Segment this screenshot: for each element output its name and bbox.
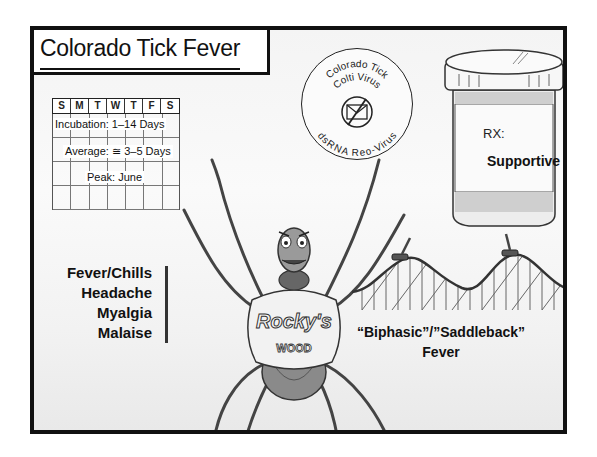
crossed-out-envelope-icon	[342, 97, 372, 127]
shirt-text-rockys: Rocky's	[256, 310, 332, 332]
day-sun: S	[53, 99, 71, 113]
symptom-item: Myalgia	[67, 303, 152, 323]
day-tue: T	[89, 99, 107, 113]
day-sat: S	[161, 99, 179, 113]
rx-label: RX:	[483, 126, 505, 141]
day-mon: M	[71, 99, 89, 113]
coaster-cart-icon	[392, 238, 410, 260]
illustration-frame: Colorado Tick Fever S M T W T F S Incuba…	[30, 26, 567, 434]
average-label: Average: ≅ 3–5 Days	[63, 145, 173, 158]
coaster-cart-icon	[502, 234, 518, 256]
treatment-value: Supportive	[487, 153, 560, 169]
fever-pattern-caption: “Biphasic”/”Saddleback” Fever	[326, 322, 556, 362]
day-fri: F	[143, 99, 161, 113]
title-box: Colorado Tick Fever	[34, 30, 270, 75]
incubation-label: Incubation: 1–14 Days	[53, 118, 166, 130]
symptom-item: Headache	[67, 283, 152, 303]
title-underline	[40, 68, 240, 70]
calendar-grid: Incubation: 1–14 Days Average: ≅ 3–5 Day…	[52, 114, 180, 210]
page-title: Colorado Tick Fever	[40, 35, 240, 62]
symptom-item: Malaise	[67, 323, 152, 343]
calendar-header: S M T W T F S	[52, 98, 180, 114]
peak-label: Peak: June	[85, 171, 144, 183]
calendar: S M T W T F S Incubation: 1–14 Days Aver…	[52, 98, 180, 210]
biphasic-rollercoaster-illustration	[352, 230, 567, 310]
symptom-item: Fever/Chills	[67, 263, 152, 283]
shirt-text-wood: WOOD	[276, 342, 311, 354]
day-thu: T	[125, 99, 143, 113]
day-wed: W	[107, 99, 125, 113]
symptoms-list: Fever/Chills Headache Myalgia Malaise	[67, 263, 152, 343]
symptoms-bracket	[165, 266, 168, 343]
fever-pattern-line2: Fever	[326, 342, 556, 362]
fever-pattern-line1: “Biphasic”/”Saddleback”	[326, 322, 556, 342]
